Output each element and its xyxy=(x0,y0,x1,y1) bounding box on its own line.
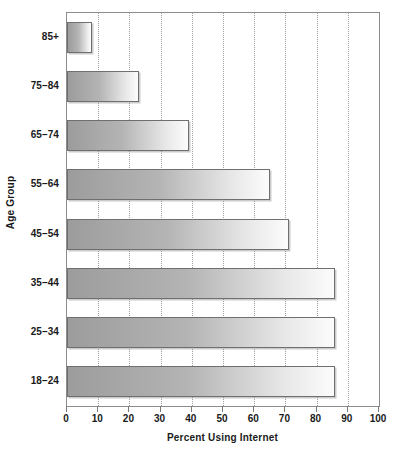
bar-slot xyxy=(67,111,379,160)
x-axis-tick-label: 100 xyxy=(370,413,387,424)
bar-slot xyxy=(67,210,379,259)
y-axis-tick-label: 35–44 xyxy=(20,258,64,307)
x-axis-tick xyxy=(222,406,223,412)
bar-slot xyxy=(67,357,379,406)
x-axis-tick-label: 10 xyxy=(92,413,103,424)
y-axis-tick-label: 85+ xyxy=(20,12,64,61)
x-axis-title: Percent Using Internet xyxy=(66,432,379,443)
y-axis-tick-label: 65–74 xyxy=(20,110,64,159)
x-axis-tick xyxy=(253,406,254,412)
bar[interactable] xyxy=(67,120,189,151)
x-axis-tick-label: 70 xyxy=(279,413,290,424)
bar[interactable] xyxy=(67,169,270,200)
x-axis-tick-label: 0 xyxy=(63,413,69,424)
bar[interactable] xyxy=(67,71,139,102)
y-axis-tick-label: 75–84 xyxy=(20,61,64,110)
x-axis-tick xyxy=(284,406,285,412)
bar-slot xyxy=(67,160,379,209)
plot-area xyxy=(66,12,380,407)
bar[interactable] xyxy=(67,317,335,348)
x-axis-tick xyxy=(316,406,317,412)
y-axis-tick-label: 18–24 xyxy=(20,356,64,405)
bar[interactable] xyxy=(67,366,335,397)
x-axis-tick xyxy=(160,406,161,412)
x-axis-tick xyxy=(128,406,129,412)
y-axis-title-text: Age Group xyxy=(6,176,17,229)
x-axis-tick-label: 80 xyxy=(310,413,321,424)
x-axis-tick-labels: 0102030405060708090100 xyxy=(0,413,405,429)
x-axis-tick-label: 40 xyxy=(185,413,196,424)
x-axis-tick-label: 60 xyxy=(248,413,259,424)
x-axis-tick-label: 30 xyxy=(154,413,165,424)
bar-chart: Age Group 85+75–8465–7455–6445–5435–4425… xyxy=(0,0,405,460)
x-axis-tick xyxy=(66,406,67,412)
x-axis-tick xyxy=(378,406,379,412)
bars-layer xyxy=(67,13,379,406)
bar[interactable] xyxy=(67,22,92,53)
x-axis-tick-label: 50 xyxy=(216,413,227,424)
y-axis-title: Age Group xyxy=(0,0,22,405)
x-axis-tick-label: 20 xyxy=(123,413,134,424)
bar[interactable] xyxy=(67,219,289,250)
x-axis-tick xyxy=(191,406,192,412)
y-axis-tick-label: 45–54 xyxy=(20,209,64,258)
bar-slot xyxy=(67,308,379,357)
y-axis-tick-label: 25–34 xyxy=(20,307,64,356)
y-axis-tick-labels: 85+75–8465–7455–6445–5435–4425–3418–24 xyxy=(20,12,64,405)
x-axis-ticks xyxy=(66,406,379,413)
bar-slot xyxy=(67,13,379,62)
x-axis-tick-label: 90 xyxy=(341,413,352,424)
x-axis-tick xyxy=(97,406,98,412)
y-axis-tick-label: 55–64 xyxy=(20,159,64,208)
bar-slot xyxy=(67,62,379,111)
bar-slot xyxy=(67,259,379,308)
x-axis-tick xyxy=(347,406,348,412)
bar[interactable] xyxy=(67,268,335,299)
